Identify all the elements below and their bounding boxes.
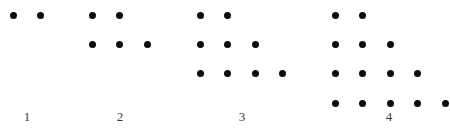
figure-1-dots — [10, 12, 45, 41]
dot — [224, 12, 231, 19]
dot — [252, 70, 259, 77]
dot — [116, 12, 123, 19]
dot-row — [89, 12, 151, 19]
dot — [359, 12, 366, 19]
dot — [89, 12, 96, 19]
dot — [442, 100, 449, 107]
dot — [252, 41, 259, 48]
dot — [332, 70, 339, 77]
dot — [332, 100, 339, 107]
dot-row — [332, 41, 449, 48]
dot — [414, 100, 421, 107]
dot — [197, 70, 204, 77]
dot-pattern-sequence: 1 2 3 4 — [0, 0, 450, 129]
dot-row — [197, 12, 287, 19]
dot — [332, 41, 339, 48]
dot — [387, 41, 394, 48]
dot-row — [332, 70, 449, 77]
dot — [414, 70, 421, 77]
figure-1-label: 1 — [24, 110, 31, 123]
dot — [197, 41, 204, 48]
dot — [89, 41, 96, 48]
figure-2-label: 2 — [117, 110, 124, 123]
dot-row — [197, 70, 287, 77]
dot — [144, 41, 151, 48]
dot — [279, 70, 286, 77]
dot — [224, 41, 231, 48]
dot-row — [197, 41, 287, 48]
dot — [10, 12, 17, 19]
dot — [224, 70, 231, 77]
dot-row — [332, 12, 449, 19]
dot — [359, 41, 366, 48]
dot — [387, 100, 394, 107]
dot — [332, 12, 339, 19]
dot-row — [89, 41, 151, 48]
dot — [37, 12, 44, 19]
dot — [387, 70, 394, 77]
figure-3-label: 3 — [239, 110, 246, 123]
dot-row — [332, 100, 449, 107]
dot — [359, 100, 366, 107]
dot — [359, 70, 366, 77]
figure-2-dots — [89, 12, 151, 71]
dot-row — [10, 12, 45, 19]
dot — [116, 41, 123, 48]
dot — [197, 12, 204, 19]
figure-3-dots — [197, 12, 287, 100]
figure-4-label: 4 — [386, 110, 393, 123]
